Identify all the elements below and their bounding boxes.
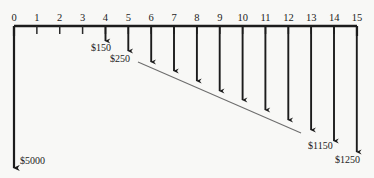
axis-tick-label-6: 6 — [149, 12, 154, 23]
axis-tick-marks — [14, 26, 357, 36]
cash-flow-label-period-4: $150 — [91, 42, 111, 53]
cash-flow-label-period-5: $250 — [110, 53, 130, 64]
axis-tick-label-0: 0 — [11, 12, 16, 23]
axis-tick-label-9: 9 — [217, 12, 222, 23]
axis-tick-label-4: 4 — [103, 12, 109, 23]
axis-tick-label-1: 1 — [34, 12, 39, 23]
axis-tick-label-3: 3 — [80, 12, 85, 23]
cash-flow-timeline-figure: 0123456789101112131415 $5000$150$250$115… — [0, 0, 374, 178]
axis-tick-label-5: 5 — [126, 12, 131, 23]
cash-flow-arrows-group — [14, 26, 357, 168]
cash-flow-label-period-0: $5000 — [20, 155, 45, 166]
timeline-svg-canvas: 0123456789101112131415 $5000$150$250$115… — [0, 0, 374, 178]
axis-tick-label-14: 14 — [329, 12, 340, 23]
axis-tick-label-2: 2 — [57, 12, 62, 23]
axis-tick-labels: 0123456789101112131415 — [11, 12, 362, 23]
axis-tick-label-15: 15 — [352, 12, 363, 23]
axis-tick-label-13: 13 — [306, 12, 317, 23]
axis-group: 0123456789101112131415 — [11, 12, 362, 36]
axis-tick-label-11: 11 — [260, 12, 270, 23]
axis-tick-label-8: 8 — [194, 12, 199, 23]
cash-flow-label-period-14: $1150 — [308, 140, 333, 151]
cash-flow-label-period-15: $1250 — [335, 154, 360, 165]
axis-tick-label-7: 7 — [171, 12, 176, 23]
cash-flow-labels-group: $5000$150$250$1150$1250 — [20, 42, 360, 166]
axis-tick-label-12: 12 — [283, 12, 294, 23]
axis-tick-label-10: 10 — [237, 12, 248, 23]
